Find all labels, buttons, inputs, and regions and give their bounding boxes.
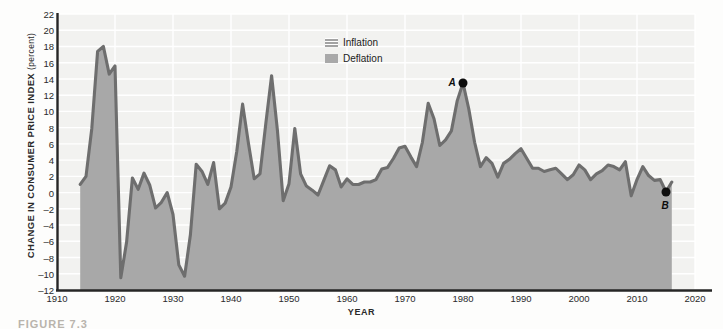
x-tick-label: 1920 (92, 293, 138, 304)
y-axis-title: CHANGE IN CONSUMER PRICE INDEX (percent) (25, 6, 36, 286)
x-tick-label: 1960 (324, 293, 370, 304)
legend-item-inflation: Inflation (325, 36, 382, 49)
x-tick-label: 1990 (498, 293, 544, 304)
chart-legend: Inflation Deflation (325, 36, 382, 68)
legend-swatch-inflation-icon (325, 38, 338, 47)
x-tick-label: 1940 (208, 293, 254, 304)
x-tick-label: 2010 (614, 293, 660, 304)
figure-caption: FIGURE 7.3 (18, 318, 88, 329)
x-tick-label: 1970 (382, 293, 428, 304)
x-tick-label: 1950 (266, 293, 312, 304)
annotation-label-a: A (448, 77, 455, 88)
y-axis-title-unit: (percent) (26, 33, 36, 70)
legend-swatch-deflation-icon (325, 54, 338, 63)
x-tick-label: 2020 (672, 293, 718, 304)
x-tick-label: 2000 (556, 293, 602, 304)
y-axis-title-main: CHANGE IN CONSUMER PRICE INDEX (25, 73, 36, 258)
x-axis-title: YEAR (0, 307, 723, 317)
legend-item-deflation: Deflation (325, 52, 382, 65)
legend-label-inflation: Inflation (343, 37, 378, 48)
x-tick-label: 1930 (150, 293, 196, 304)
annotation-label-b: B (661, 199, 668, 210)
annotation-point-a (459, 79, 468, 88)
figure-root: 2220181614121086420–2–4–6–8–10–12 191019… (0, 0, 723, 329)
legend-label-deflation: Deflation (343, 53, 382, 64)
annotation-point-b (662, 187, 671, 196)
x-tick-label: 1980 (440, 293, 486, 304)
x-tick-label: 1910 (34, 293, 80, 304)
